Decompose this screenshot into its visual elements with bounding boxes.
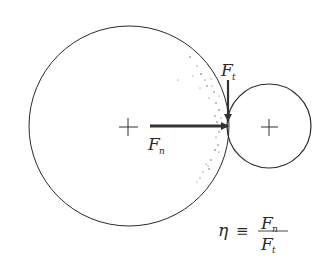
formula-operator: ≡ [236,222,249,240]
formula-lhs: η [218,220,229,240]
ft-label: F t [220,60,236,82]
ft-label-sub: t [232,72,236,82]
fn-label-sub: n [159,146,165,156]
large-circle-center-mark [119,118,138,136]
eta-formula: η ≡ F n F t [218,213,288,255]
formula-denominator-sub: t [272,245,276,255]
small-circle-center-mark [261,119,278,136]
fn-label: F n [147,134,165,156]
formula-numerator-sub: n [272,224,278,234]
contact-diagram: F t F n η ≡ F n F t [0,0,327,262]
